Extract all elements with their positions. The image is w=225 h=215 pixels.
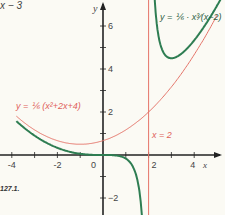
- x-axis-arrow-icon: [214, 152, 222, 158]
- green-rational-curve: [16, 121, 148, 215]
- red-curve-label: y = ⅙ (x²+2x+4): [16, 101, 81, 111]
- y-tick-label: 2: [108, 107, 113, 117]
- y-axis-label: y: [92, 3, 98, 14]
- y-axis-arrow-icon: [100, 2, 106, 10]
- figure-number: 127.1.: [0, 185, 19, 192]
- x-tick-label: -4: [8, 160, 16, 170]
- y-tick-label: 6: [108, 21, 113, 31]
- x-tick-label: -2: [53, 160, 61, 170]
- asymptote-label: x = 2: [152, 130, 172, 140]
- x-tick-label: 4: [190, 160, 195, 170]
- y-tick-label: −2: [108, 193, 118, 203]
- y-tick-label: 4: [108, 64, 113, 74]
- x-axis-label: x: [202, 160, 207, 170]
- red-parabola-curve: [16, 15, 217, 144]
- x-tick-label: 2: [152, 160, 157, 170]
- origin-label: 0: [91, 160, 96, 170]
- green-curve-label: y = ⅙ · x³⁄(x−2): [160, 12, 222, 22]
- green-rational-curve: [150, 0, 222, 58]
